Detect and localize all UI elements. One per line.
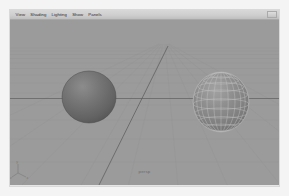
- axis-gizmo-label-x: x: [27, 176, 29, 180]
- sphere-wireframe-on-shaded[interactable]: [193, 72, 249, 132]
- viewport-label: persp: [139, 169, 151, 174]
- menu-lighting[interactable]: Lighting: [49, 10, 70, 20]
- viewport-window-frame: View Shading Lighting Show Panels: [9, 9, 280, 187]
- axis-gizmo-label-y: y: [16, 160, 18, 164]
- menu-view[interactable]: View: [13, 10, 28, 20]
- axis-gizmo-label-z: z: [10, 176, 12, 180]
- menubar-endcap-button[interactable]: [267, 11, 277, 18]
- viewport-3d-canvas[interactable]: y x z persp: [10, 20, 279, 187]
- menu-shading[interactable]: Shading: [28, 10, 49, 20]
- sphere-smooth-shaded[interactable]: [62, 71, 116, 123]
- menu-show[interactable]: Show: [70, 10, 86, 20]
- menu-panels[interactable]: Panels: [86, 10, 105, 20]
- app-root: View Shading Lighting Show Panels: [0, 0, 289, 196]
- viewport-scene: y x z persp: [10, 20, 279, 187]
- viewport-menubar: View Shading Lighting Show Panels: [10, 10, 279, 20]
- frame-bottom-edge: [10, 185, 279, 186]
